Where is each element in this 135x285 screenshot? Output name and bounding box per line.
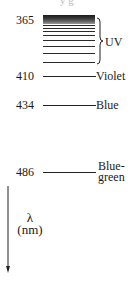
wavelength-label-410: 410 [16, 70, 34, 82]
wavelength-label-365: 365 [16, 14, 34, 26]
uv-series-limit-band [43, 15, 95, 24]
axis-label: λ (nm) [15, 212, 45, 236]
uv-brace-icon [96, 17, 104, 65]
uv-line [43, 53, 95, 54]
wavelength-label-486: 486 [16, 166, 34, 178]
cropped-text-fragment: y g [60, 0, 74, 6]
spectral-line-486 [43, 172, 96, 173]
uv-line [43, 28, 95, 29]
uv-line [43, 35, 95, 36]
wavelength-label-434: 434 [16, 99, 34, 111]
line-name-blue-green-2: green [98, 171, 125, 183]
uv-line [43, 31, 95, 32]
uv-label: UV [105, 36, 122, 48]
spectral-line-410 [43, 76, 96, 77]
uv-line [43, 62, 95, 63]
line-name-blue: Blue [96, 99, 119, 111]
uv-line [43, 40, 95, 41]
uv-line [43, 25, 95, 26]
axis-unit: (nm) [15, 224, 45, 236]
wavelength-axis-arrow-icon [4, 186, 14, 274]
line-name-violet: Violet [96, 70, 125, 82]
spectral-line-434 [43, 105, 96, 106]
uv-line [43, 46, 95, 47]
